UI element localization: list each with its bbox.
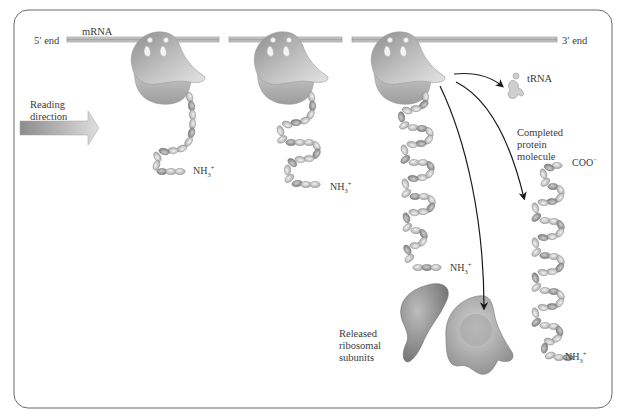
released-subunits-label: Released ribosomal subunits [339, 328, 381, 364]
n-terminus-label-4: NH3+ [565, 351, 586, 362]
n-terminus-label-1: NH3+ [193, 165, 214, 176]
ribosome-stage-2 [254, 32, 328, 104]
arrow-to-released-subunits [440, 86, 484, 308]
n-terminus-subscript: 3 [464, 268, 467, 275]
translation-termination-diagram: 5′ end mRNA 3′ end Reading direction tRN… [0, 0, 627, 417]
released-trna [508, 73, 524, 99]
ribosome-stage-1 [131, 32, 205, 104]
five-prime-end-label: 5′ end [34, 35, 59, 47]
n-terminus-superscript: + [211, 164, 215, 171]
released-small-subunit [446, 296, 513, 375]
trna-label: tRNA [527, 73, 552, 85]
n-terminus-text: NH [565, 351, 579, 362]
n-terminus-superscript: + [583, 350, 587, 357]
n-terminus-subscript: 3 [344, 187, 347, 194]
n-terminus-subscript: 3 [579, 357, 582, 364]
arrow-to-completed-protein [456, 82, 524, 198]
mrna-label: mRNA [82, 26, 112, 38]
n-terminus-superscript: + [348, 180, 352, 187]
n-terminus-label-2: NH3+ [330, 181, 351, 192]
arrow-to-trna [454, 74, 502, 87]
polypeptide-chain-2 [276, 91, 322, 187]
completed-protein-chain [530, 162, 573, 360]
completed-protein-label: Completed protein molecule [517, 127, 563, 163]
n-terminus-text: NH [330, 181, 344, 192]
n-terminus-label-3: NH3+ [450, 262, 471, 273]
c-terminus-superscript: − [593, 156, 597, 163]
n-terminus-text: NH [450, 262, 464, 273]
n-terminus-subscript: 3 [207, 171, 210, 178]
three-prime-end-label: 3′ end [562, 35, 587, 47]
c-terminus-label: COO− [572, 157, 597, 168]
diagram-canvas [0, 0, 627, 417]
reading-direction-label: Reading direction [30, 99, 67, 123]
c-terminus-text: COO [572, 157, 593, 168]
ribosome-stage-3 [371, 32, 445, 104]
n-terminus-superscript: + [468, 261, 472, 268]
n-terminus-text: NH [193, 165, 207, 176]
released-large-subunit [401, 284, 449, 362]
polypeptide-chain-3 [398, 92, 442, 271]
